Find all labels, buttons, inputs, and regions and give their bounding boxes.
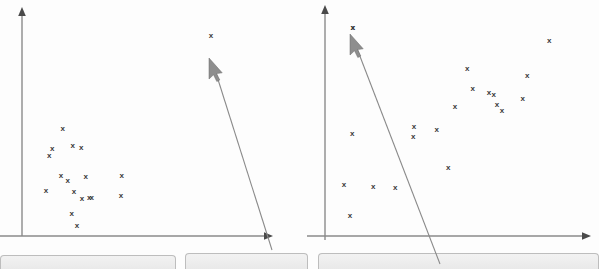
data-point: x: [75, 221, 80, 230]
data-point: x: [70, 141, 75, 150]
data-point: x: [348, 211, 353, 220]
data-point: x: [79, 143, 84, 152]
left-panel-y-axis: [18, 7, 26, 236]
data-point: x: [491, 90, 496, 99]
left-panel-cursor-annotation: [209, 58, 272, 250]
data-point: x: [59, 171, 64, 180]
data-point: x: [89, 193, 94, 202]
data-point: x: [547, 36, 552, 45]
data-point: x: [80, 194, 85, 203]
data-point: x: [446, 163, 451, 172]
right-panel-data-points: xxxxxxxxxxxxxxxxxxxxx: [342, 23, 552, 220]
data-point: x: [119, 171, 124, 180]
data-point: x: [351, 23, 356, 32]
data-point: x: [411, 132, 416, 141]
data-point: x: [371, 182, 376, 191]
data-point: x: [69, 209, 74, 218]
scatter-figure-svg: xxxxxxxxxxxxxxxxxx xxxxxxxxxxxxxxxxxxxxx: [0, 0, 599, 269]
data-point: x: [60, 124, 65, 133]
data-point: x: [525, 71, 530, 80]
data-point: x: [72, 187, 77, 196]
data-point: x: [65, 176, 70, 185]
data-point: x: [500, 106, 505, 115]
data-point: x: [209, 31, 214, 40]
data-point: x: [393, 183, 398, 192]
data-point: x: [412, 122, 417, 131]
data-point: x: [520, 94, 525, 103]
data-point: x: [83, 172, 88, 181]
right-panel-y-axis: [321, 5, 329, 240]
left-panel-group: xxxxxxxxxxxxxxxxxx: [0, 7, 273, 250]
data-point: x: [465, 64, 470, 73]
data-point: x: [470, 84, 475, 93]
data-point: x: [434, 125, 439, 134]
left-panel-data-points: xxxxxxxxxxxxxxxxxx: [44, 31, 214, 230]
right-panel-cursor-annotation: [350, 34, 440, 264]
right-panel-x-axis: [307, 232, 591, 240]
data-point: x: [453, 102, 458, 111]
data-point: x: [350, 129, 355, 138]
data-point: x: [47, 151, 52, 160]
figure-stage: xxxxxxxxxxxxxxxxxx xxxxxxxxxxxxxxxxxxxxx: [0, 0, 599, 269]
left-panel-x-axis: [0, 232, 273, 240]
data-point: x: [44, 186, 49, 195]
data-point: x: [342, 180, 347, 189]
right-panel-group: xxxxxxxxxxxxxxxxxxxxx: [307, 5, 591, 264]
data-point: x: [119, 191, 124, 200]
